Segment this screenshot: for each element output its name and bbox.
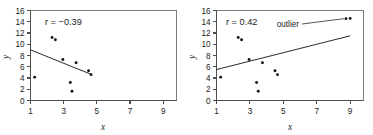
correlation-label-left: r = −0.39 <box>45 17 82 27</box>
x-tick-label: 9 <box>161 107 166 116</box>
x-tick-label: 5 <box>281 107 286 116</box>
data-point <box>33 76 36 79</box>
x-tick-label: 3 <box>61 107 66 116</box>
data-point <box>274 69 277 72</box>
data-point <box>87 69 90 72</box>
scatter-panel-left: 0246810121416 13579 x y r = −0.39 <box>0 0 186 135</box>
y-tick-label: 12 <box>201 29 211 38</box>
y-tick-label: 12 <box>15 29 25 38</box>
x-tick-group-left: 13579 <box>28 101 166 116</box>
y-tick-label: 14 <box>15 18 25 27</box>
scatter-plot-left-svg: 0246810121416 13579 x y r = −0.39 <box>0 0 186 135</box>
y-tick-label: 16 <box>201 7 211 16</box>
y-tick-label: 4 <box>206 74 211 83</box>
data-point <box>237 36 240 39</box>
y-tick-label: 2 <box>206 85 211 94</box>
y-tick-label: 6 <box>206 63 211 72</box>
data-point <box>345 17 348 20</box>
data-point <box>257 90 260 93</box>
y-tick-label: 10 <box>15 40 25 49</box>
data-point <box>61 58 64 61</box>
trend-line-left <box>31 50 92 75</box>
y-tick-label: 14 <box>201 18 211 27</box>
data-point <box>54 38 57 41</box>
data-point-group-left <box>33 36 92 93</box>
correlation-label-right: r = 0.42 <box>226 17 257 27</box>
outlier-annotation-label: outlier <box>277 20 300 29</box>
x-axis-title-left: x <box>100 122 106 132</box>
y-tick-group-right: 0246810121416 <box>201 7 216 106</box>
x-tick-label: 7 <box>128 107 133 116</box>
scatter-plot-right-svg: 0246810121416 13579 outlier x y r = 0.42 <box>186 0 373 135</box>
data-point <box>276 73 279 76</box>
y-tick-label: 16 <box>15 7 25 16</box>
y-tick-group-left: 0246810121416 <box>15 7 30 106</box>
x-tick-label: 5 <box>95 107 100 116</box>
y-tick-label: 8 <box>20 52 25 61</box>
y-axis-title-left: y <box>1 54 11 60</box>
x-tick-label: 7 <box>314 107 319 116</box>
y-tick-label: 4 <box>20 74 25 83</box>
data-point <box>248 58 251 61</box>
x-tick-group-right: 13579 <box>214 101 353 116</box>
x-tick-label: 9 <box>348 107 353 116</box>
data-point <box>69 81 72 84</box>
data-point <box>240 38 243 41</box>
y-tick-label: 6 <box>20 63 25 72</box>
data-point <box>75 61 78 64</box>
x-tick-label: 1 <box>28 107 33 116</box>
y-tick-label: 10 <box>201 40 211 49</box>
y-tick-label: 0 <box>20 97 25 106</box>
y-tick-label: 0 <box>206 97 211 106</box>
data-point <box>255 81 258 84</box>
y-tick-label: 2 <box>20 85 25 94</box>
x-tick-label: 1 <box>214 107 219 116</box>
y-axis-title-right: y <box>187 54 197 60</box>
x-axis-title-right: x <box>287 122 293 132</box>
data-point <box>219 76 222 79</box>
data-point <box>51 36 54 39</box>
scatter-panel-right: 0246810121416 13579 outlier x y r = 0.42 <box>186 0 372 135</box>
x-tick-label: 3 <box>248 107 253 116</box>
two-panel-scatter-figure: 0246810121416 13579 x y r = −0.39 024681… <box>0 0 373 135</box>
y-tick-label: 8 <box>206 52 211 61</box>
data-point <box>71 90 74 93</box>
trend-line-right <box>217 36 351 70</box>
data-point <box>349 17 352 20</box>
outlier-leader-line <box>302 19 344 24</box>
data-point <box>261 61 264 64</box>
